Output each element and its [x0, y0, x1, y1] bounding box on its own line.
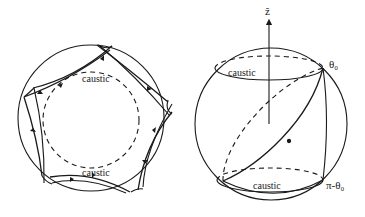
caustic-label-top-right: caustic — [228, 67, 256, 78]
theta0-label: θ₀ — [329, 58, 338, 70]
great-circle-back — [223, 68, 323, 181]
caustic-label-bottom-left: caustic — [82, 167, 110, 178]
right-sphere-diagram — [195, 22, 347, 200]
great-circle-front — [223, 68, 323, 181]
pi-minus-theta0-label: π-θ₀ — [326, 179, 344, 191]
figure: caustic caustic ẑ θ₀ caustic caustic π-θ… — [0, 0, 365, 217]
orbit-point — [287, 139, 290, 142]
caustic-label-bottom-right: caustic — [253, 180, 281, 191]
caustic-circle — [43, 72, 139, 168]
bottom-caustic-back — [217, 168, 323, 180]
right-arc — [323, 68, 327, 180]
z-axis-label: ẑ — [265, 5, 270, 17]
caustic-label-top-left: caustic — [82, 73, 110, 84]
